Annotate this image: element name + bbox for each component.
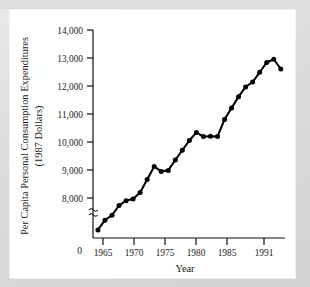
data-point: [109, 213, 114, 218]
data-point: [208, 134, 213, 139]
y-tick-label: 10,000: [57, 138, 83, 148]
series-line: [98, 59, 281, 230]
data-point: [159, 169, 164, 174]
data-point: [131, 197, 136, 202]
data-point: [180, 148, 185, 153]
y-tick-label: 9,000: [62, 166, 83, 176]
data-point: [173, 158, 178, 163]
x-tick-marks: [103, 238, 264, 245]
y-tick-label: 11,000: [58, 110, 84, 120]
data-point: [194, 130, 199, 135]
line-chart: 14,000 13,000 12,000 11,000 10,000 9,000…: [10, 10, 295, 278]
data-point: [236, 94, 241, 99]
data-point: [250, 80, 255, 85]
data-point: [187, 138, 192, 143]
data-point: [278, 67, 283, 72]
x-tick-label: 1980: [187, 248, 206, 258]
data-point: [166, 168, 171, 173]
chart-panel: 14,000 13,000 12,000 11,000 10,000 9,000…: [10, 10, 295, 278]
data-point: [138, 190, 143, 195]
x-tick-label: 1970: [125, 248, 144, 258]
x-axis-title: Year: [175, 263, 195, 274]
x-tick-label: 1991: [255, 248, 274, 258]
x-tick-label: 1965: [94, 248, 113, 258]
data-point: [124, 198, 129, 203]
data-point: [145, 177, 150, 182]
figure-frame: 14,000 13,000 12,000 11,000 10,000 9,000…: [0, 0, 310, 287]
data-point: [243, 84, 248, 89]
data-point: [102, 218, 107, 223]
data-point: [229, 106, 234, 111]
y-tick-label: 14,000: [57, 26, 83, 36]
y-tick-labels: 14,000 13,000 12,000 11,000 10,000 9,000…: [57, 26, 83, 204]
data-point: [201, 134, 206, 139]
y-axis-title-line-1: Per Capita Personal Consumption Expendit…: [19, 37, 30, 235]
data-point: [152, 164, 157, 169]
data-point: [215, 134, 220, 139]
y-axis-title-line-2: (1987 Dollars): [33, 106, 45, 167]
y-tick-label: 8,000: [62, 194, 83, 204]
series-markers: [95, 57, 283, 233]
figure-top-edge: [0, 0, 310, 9]
data-point: [222, 117, 227, 122]
y-tick-label: 13,000: [57, 54, 83, 64]
y-tick-marks: [87, 30, 93, 198]
data-point: [271, 57, 276, 62]
data-point: [117, 203, 122, 208]
x-tick-label: 1985: [218, 248, 237, 258]
x-tick-label: 1975: [156, 248, 175, 258]
data-point: [264, 60, 269, 65]
data-point: [95, 227, 100, 232]
origin-label: 0: [77, 245, 82, 256]
data-point: [257, 70, 262, 75]
y-tick-label: 12,000: [57, 82, 83, 92]
x-tick-labels: 1965 1970 1975 1980 1985 1991: [94, 248, 274, 258]
